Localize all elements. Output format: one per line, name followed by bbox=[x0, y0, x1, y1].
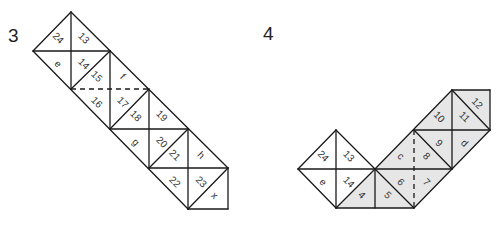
figure-3-net: 2413e1415f16171819g2021h2223x bbox=[33, 12, 228, 209]
folding-nets-diagram: 2413e1415f16171819g2021h2223x 2413e14456… bbox=[0, 0, 497, 227]
figure-4-net: 2413e14456c879101112d bbox=[298, 90, 490, 208]
